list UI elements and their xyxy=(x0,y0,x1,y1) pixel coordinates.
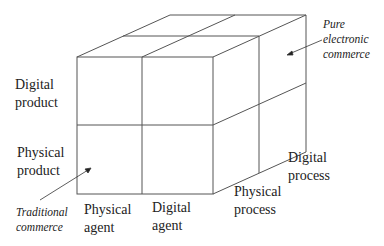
label-line: agent xyxy=(152,217,191,235)
label-digital-agent: Digital agent xyxy=(152,199,191,235)
label-line: process xyxy=(288,167,330,185)
label-line: product xyxy=(17,162,64,180)
annotation-line: Pure xyxy=(323,17,370,32)
annotation-line: commerce xyxy=(323,47,370,62)
label-line: agent xyxy=(84,219,131,237)
annotation-line: commerce xyxy=(16,220,68,235)
label-physical-process: Physical process xyxy=(234,183,281,219)
label-line: Digital xyxy=(15,76,58,94)
label-line: Digital xyxy=(152,199,191,217)
annotation-line: electronic xyxy=(323,32,370,47)
annotation-line: Traditional xyxy=(16,205,68,220)
label-digital-product: Digital product xyxy=(15,76,58,112)
label-line: Physical xyxy=(84,201,131,219)
label-line: Physical xyxy=(234,183,281,201)
label-physical-product: Physical product xyxy=(17,144,64,180)
label-line: Digital xyxy=(288,149,330,167)
annotation-traditional: Traditional commerce xyxy=(16,205,68,235)
label-digital-process: Digital process xyxy=(288,149,330,185)
label-line: process xyxy=(234,201,281,219)
label-physical-agent: Physical agent xyxy=(84,201,131,237)
arrowhead-icon xyxy=(85,168,91,173)
arrowhead-icon xyxy=(287,51,293,55)
annotation-pure-ec: Pure electronic commerce xyxy=(323,17,370,62)
label-line: product xyxy=(15,94,58,112)
label-line: Physical xyxy=(17,144,64,162)
